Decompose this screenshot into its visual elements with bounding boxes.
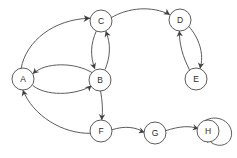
node-e[interactable]: E bbox=[185, 68, 207, 90]
node-layer: A B C D E F G H bbox=[12, 9, 219, 144]
edge-c-to-b bbox=[90, 31, 96, 69]
edge-path-f-to-g bbox=[112, 127, 144, 132]
edge-d-to-e bbox=[189, 27, 204, 69]
node-g[interactable]: G bbox=[144, 122, 166, 144]
edge-f-to-a bbox=[22, 90, 91, 133]
edge-path-b-to-c bbox=[105, 31, 109, 69]
node-h[interactable]: H bbox=[197, 120, 219, 142]
node-d-circle[interactable] bbox=[169, 9, 191, 31]
edge-a-to-b bbox=[33, 86, 92, 94]
node-f[interactable]: F bbox=[90, 120, 112, 142]
node-e-circle[interactable] bbox=[185, 68, 207, 90]
edge-path-f-to-a bbox=[23, 90, 90, 133]
arrowhead-f-to-g bbox=[138, 127, 144, 133]
edge-c-to-d bbox=[111, 9, 169, 18]
node-f-circle[interactable] bbox=[90, 120, 112, 142]
edge-path-e-to-d bbox=[179, 31, 189, 70]
node-d[interactable]: D bbox=[169, 9, 191, 31]
edge-b-to-a bbox=[33, 65, 92, 74]
edge-path-c-to-d bbox=[111, 9, 169, 18]
node-a-circle[interactable] bbox=[12, 68, 34, 90]
edge-e-to-d bbox=[177, 31, 190, 70]
node-h-circle[interactable] bbox=[197, 120, 219, 142]
node-c-circle[interactable] bbox=[90, 10, 112, 32]
node-a[interactable]: A bbox=[12, 68, 34, 90]
node-b[interactable]: B bbox=[89, 69, 111, 91]
edge-path-d-to-e bbox=[189, 27, 202, 69]
edge-path-g-to-h bbox=[166, 127, 198, 131]
node-c[interactable]: C bbox=[90, 10, 112, 32]
graph-diagram: A B C D E F G H bbox=[0, 0, 237, 158]
edge-path-b-to-a bbox=[33, 65, 92, 74]
edge-b-to-f bbox=[99, 91, 105, 120]
edge-f-to-g bbox=[112, 127, 145, 133]
node-g-circle[interactable] bbox=[144, 122, 166, 144]
edge-path-a-to-c bbox=[21, 18, 90, 68]
edge-a-to-c bbox=[21, 15, 90, 68]
arrowhead-f-to-a bbox=[22, 90, 28, 97]
edge-path-a-to-b bbox=[33, 86, 91, 94]
edge-g-to-h bbox=[166, 124, 199, 131]
edge-b-to-c bbox=[105, 31, 111, 69]
node-b-circle[interactable] bbox=[89, 69, 111, 91]
